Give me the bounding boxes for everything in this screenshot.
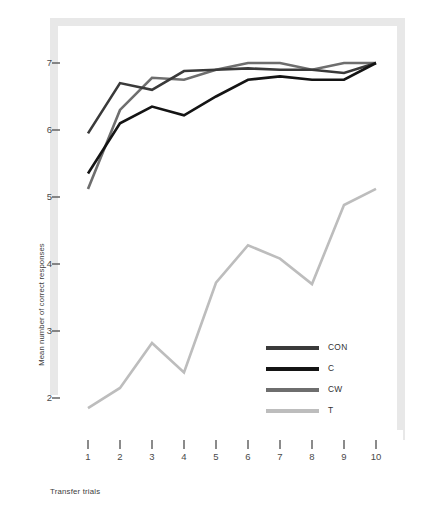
legend-label-con: CON (328, 342, 348, 352)
legend-label-t: T (328, 405, 333, 415)
legend-item-cw: CW (266, 382, 378, 403)
x-tick-label: 9 (333, 452, 355, 462)
chart-legend: CONCCWT (266, 340, 378, 424)
legend-item-con: CON (266, 340, 378, 361)
legend-item-c: C (266, 361, 378, 382)
legend-swatch-cw (266, 388, 319, 392)
x-tick-label: 1 (77, 452, 99, 462)
x-tick-label: 10 (365, 452, 387, 462)
x-tick-label: 7 (269, 452, 291, 462)
x-tick-label: 8 (301, 452, 323, 462)
x-axis-title: Transfer trials (50, 487, 100, 496)
legend-swatch-con (266, 346, 319, 350)
x-tick-label: 4 (173, 452, 195, 462)
legend-label-c: C (328, 363, 334, 373)
legend-swatch-t (266, 409, 319, 413)
legend-item-t: T (266, 403, 378, 424)
x-tick-label: 5 (205, 452, 227, 462)
x-axis: 12345678910 Transfer trials (0, 0, 431, 515)
x-tick-label: 2 (109, 452, 131, 462)
x-tick-label: 3 (141, 452, 163, 462)
legend-swatch-c (266, 367, 319, 371)
legend-label-cw: CW (328, 384, 343, 394)
x-tick-label: 6 (237, 452, 259, 462)
